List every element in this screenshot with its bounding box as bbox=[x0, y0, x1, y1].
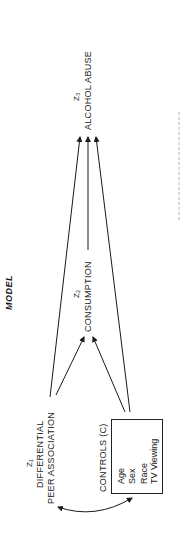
z3-label: ALCOHOL ABUSE bbox=[84, 51, 93, 130]
z1-label-line2: PEER ASSOCIATION bbox=[47, 412, 56, 504]
arrow-z1-controls-bidirectional bbox=[58, 498, 132, 512]
bleed-through-text bbox=[178, 112, 180, 220]
figure-title: MODEL bbox=[4, 275, 14, 310]
controls-item-tv-viewing: TV Viewing bbox=[149, 439, 160, 484]
controls-item-sex: Sex bbox=[127, 468, 138, 484]
controls-item-age: Age bbox=[116, 468, 127, 484]
arrow-controls-to-z3 bbox=[96, 137, 130, 412]
z3-symbol: Z₃ bbox=[73, 93, 81, 101]
z1-symbol: Z₁ bbox=[26, 459, 34, 467]
arrow-z1-to-z2 bbox=[56, 337, 84, 395]
z2-symbol: Z₂ bbox=[73, 290, 81, 298]
controls-label: CONTROLS (C) bbox=[99, 423, 108, 492]
z2-label: CONSUMPTION bbox=[84, 261, 93, 332]
arrow-z1-to-z3 bbox=[50, 137, 80, 397]
z1-label-line1: DIFFERENTIAL bbox=[36, 420, 45, 488]
controls-item-race: Race bbox=[139, 463, 150, 484]
arrow-controls-to-z2 bbox=[93, 337, 125, 412]
